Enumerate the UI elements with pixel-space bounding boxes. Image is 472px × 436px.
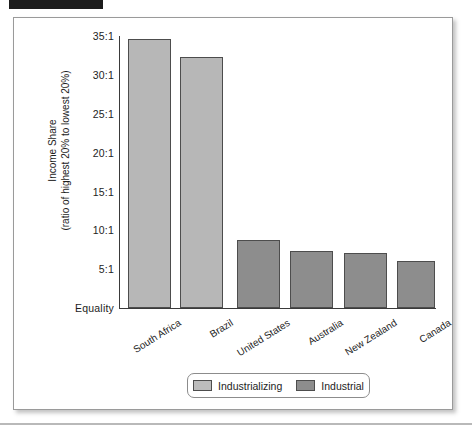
page-footer-rule bbox=[0, 423, 472, 425]
y-tick-equality: Equality bbox=[34, 303, 114, 313]
legend-swatch-industrializing-icon bbox=[193, 380, 212, 391]
bar-canada[interactable] bbox=[397, 261, 435, 308]
y-tick-10: 10:1 bbox=[66, 225, 114, 235]
legend-swatch-industrial-icon bbox=[296, 380, 315, 391]
bar-brazil[interactable] bbox=[180, 57, 223, 308]
bar-chart-plot-area: Income Share (ratio of highest 20% to lo… bbox=[14, 18, 454, 411]
y-tick-5: 5:1 bbox=[66, 264, 114, 274]
legend-label-industrial: Industrial bbox=[321, 380, 364, 392]
y-axis-title-line1: Income Share bbox=[47, 51, 60, 251]
legend-item-industrial[interactable]: Industrial bbox=[296, 380, 364, 392]
figure-frame: Income Share (ratio of highest 20% to lo… bbox=[13, 17, 453, 410]
bar-united-states[interactable] bbox=[237, 240, 280, 308]
legend-item-industrializing[interactable]: Industrializing bbox=[193, 380, 282, 392]
page-header-black-bar bbox=[9, 0, 103, 9]
bar-new-zealand[interactable] bbox=[344, 253, 387, 308]
y-tick-15: 15:1 bbox=[66, 187, 114, 197]
y-tick-30: 30:1 bbox=[66, 70, 114, 80]
legend-label-industrializing: Industrializing bbox=[218, 380, 282, 392]
bar-australia[interactable] bbox=[290, 251, 333, 308]
chart-legend: Industrializing Industrial bbox=[187, 373, 370, 398]
y-axis-line bbox=[119, 36, 120, 309]
y-tick-20: 20:1 bbox=[66, 148, 114, 158]
y-tick-35: 35:1 bbox=[66, 31, 114, 41]
y-tick-25: 25:1 bbox=[66, 109, 114, 119]
bar-south-africa[interactable] bbox=[128, 39, 171, 308]
x-axis-line bbox=[119, 308, 436, 309]
